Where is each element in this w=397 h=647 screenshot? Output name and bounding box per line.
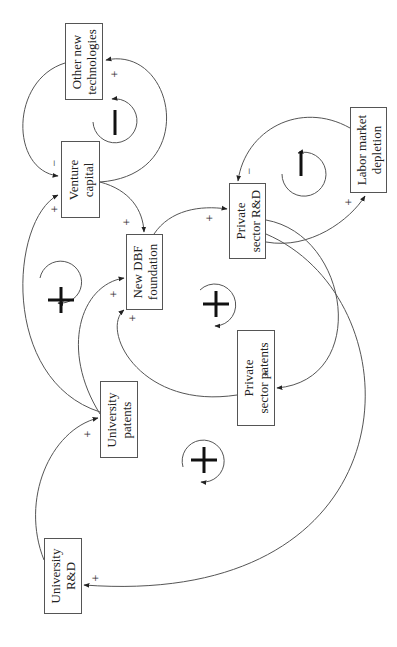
sign-tech-to-vc: − xyxy=(48,160,60,167)
node-private-sector-rd: Privatesector R&D xyxy=(229,183,266,259)
node-venture-capital: Venturecapital xyxy=(61,141,100,218)
sign-vc-to-tech: + xyxy=(109,71,121,78)
sign-dbf-to-prd: + xyxy=(204,215,216,222)
sign-prd-to-labor: + xyxy=(343,199,355,206)
sign-urd-to-upat: + xyxy=(82,431,94,438)
link-prd-to-ppat xyxy=(266,220,338,388)
sign-vc-to-dbf: + xyxy=(121,219,133,226)
sign-upat-to-dbf: + xyxy=(108,291,120,298)
node-other-new-technologies: Other newtechnologies xyxy=(65,23,103,100)
node-university-rd: UniversityR&D xyxy=(44,538,82,614)
sign-prd-to-ppat: + xyxy=(260,370,272,377)
node-new-dbf-foundation: New DBFfoundation xyxy=(126,234,163,310)
node-university-patents: Universitypatents xyxy=(100,381,138,458)
node-private-sector-patents: Privatesector patents xyxy=(237,330,275,426)
sign-ppat-to-dbf: + xyxy=(127,315,139,322)
sign-prd-to-urd: + xyxy=(90,575,102,582)
sign-upat-to-vc: + xyxy=(49,206,61,213)
loop-arrow-labor xyxy=(282,152,326,196)
node-labor-market-depletion: Labor marketdepletion xyxy=(350,107,387,193)
sign-labor-to-prd: − xyxy=(243,168,255,175)
